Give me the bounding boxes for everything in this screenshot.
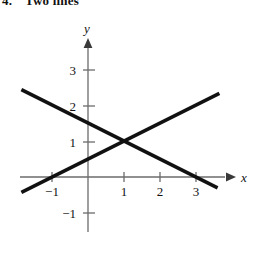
- y-tick-label-3: 3: [70, 63, 77, 78]
- x-axis-arrowhead: [226, 173, 236, 182]
- y-tick-label-1: 1: [70, 135, 77, 150]
- y-axis-label: y: [82, 21, 90, 36]
- axes-group: [20, 38, 236, 232]
- y-axis-arrowhead: [84, 38, 93, 48]
- coordinate-plot: y x −1 1 2 3 3 2 1 −1: [0, 0, 260, 253]
- y-tick-labels-group: 3 2 1 −1: [62, 63, 76, 221]
- x-tick-label-3: 3: [193, 184, 200, 199]
- y-tick-label-2: 2: [70, 99, 77, 114]
- x-axis-label: x: [240, 170, 247, 185]
- x-tick-label-neg1: −1: [45, 184, 59, 199]
- x-tick-label-2: 2: [157, 184, 164, 199]
- y-ticks-group: [83, 70, 95, 213]
- figure-two-lines: 4. Two lines y x −1 1 2 3: [0, 0, 260, 253]
- y-tick-label-neg1: −1: [62, 206, 76, 221]
- x-tick-labels-group: −1 1 2 3: [45, 184, 199, 199]
- decreasing-line: [21, 90, 217, 188]
- x-tick-label-1: 1: [121, 184, 128, 199]
